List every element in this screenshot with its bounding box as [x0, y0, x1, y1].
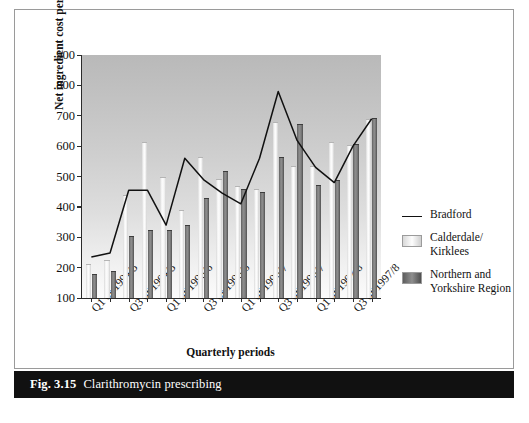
y-tick-label: 100 — [31, 291, 82, 306]
y-tick-label: 400 — [31, 199, 82, 214]
x-tick-mark — [334, 298, 335, 302]
y-tick-label: 900 — [31, 48, 82, 63]
figure-caption-text: Clarithromycin prescribing — [76, 377, 221, 391]
plot-area: Net ingredient cost per 10,000 patients … — [81, 55, 381, 299]
legend-label-calderdale-kirklees: Calderdale/ Kirklees — [430, 230, 522, 258]
x-tick-mark — [260, 298, 261, 302]
y-tick-label: 200 — [31, 260, 82, 275]
legend-line-key-icon — [402, 216, 422, 217]
figure-caption: Fig. 3.15Clarithromycin prescribing — [14, 377, 222, 392]
x-tick-mark — [147, 298, 148, 302]
figure-caption-bar: Fig. 3.15Clarithromycin prescribing — [14, 371, 514, 398]
legend-item-bradford[interactable]: Bradford — [402, 207, 522, 221]
x-tick-mark — [297, 298, 298, 302]
x-tick-mark — [222, 298, 223, 302]
x-tick-mark — [185, 298, 186, 302]
x-tick-mark — [372, 298, 373, 302]
figure-frame: Quarterly periods Net ingredient cost pe… — [14, 9, 514, 369]
legend-label-northern-yorkshire: Northern and Yorkshire Region — [430, 267, 522, 295]
legend-label-bradford: Bradford — [430, 207, 472, 221]
legend-item-calderdale-kirklees[interactable]: Calderdale/ Kirklees — [402, 230, 522, 258]
legend-swatch-light-icon — [402, 235, 422, 247]
y-tick-label: 700 — [31, 108, 82, 123]
x-tick-mark — [110, 298, 111, 302]
y-tick-label: 600 — [31, 139, 82, 154]
line-series-bradford — [82, 55, 381, 298]
figure-number: Fig. 3.15 — [30, 377, 76, 391]
y-tick-label: 300 — [31, 230, 82, 245]
chart-legend: Bradford Calderdale/ Kirklees Northern a… — [402, 207, 522, 304]
legend-swatch-dark-icon — [402, 272, 422, 284]
legend-item-northern-yorkshire[interactable]: Northern and Yorkshire Region — [402, 267, 522, 295]
y-tick-label: 800 — [31, 78, 82, 93]
x-axis-title: Quarterly periods — [81, 346, 380, 358]
plot-clip — [82, 55, 381, 298]
figure-page: Quarterly periods Net ingredient cost pe… — [0, 0, 529, 423]
y-tick-label: 500 — [31, 169, 82, 184]
